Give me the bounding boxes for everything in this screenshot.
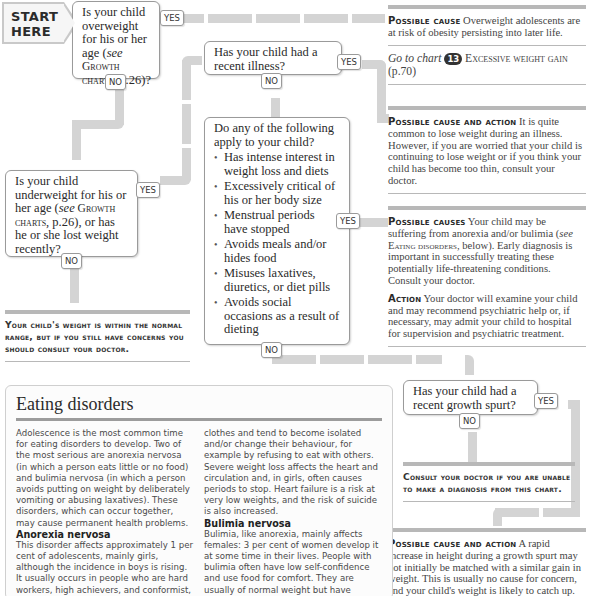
result-eating-lead: Possible causes — [388, 216, 466, 227]
eating-disorders-columns: Adolescence is the most common time for … — [16, 428, 382, 596]
question-eating-signs: Do any of the following apply to your ch… — [204, 117, 350, 345]
connector-q3-no-down — [465, 355, 474, 375]
anorexia-text: This disorder affects approximately 1 pe… — [16, 540, 194, 596]
connector-q3-yes — [360, 218, 388, 227]
goto-chart-page: (p.70) — [388, 65, 416, 78]
result-growth-lead: Possible cause and action — [388, 538, 516, 549]
connector-q1-no — [115, 85, 124, 125]
q1-yes-label[interactable]: YES — [160, 10, 184, 26]
connector-q3-no-h — [272, 355, 442, 364]
bulimia-heading: Bulimia nervosa — [204, 518, 382, 529]
result-eating-see: see — [559, 228, 573, 239]
chart-number-badge[interactable]: 13 — [444, 53, 462, 65]
result-consult-doctor: Consult your doctor if you are unable to… — [403, 462, 575, 502]
bulimia-text: Bulimia, like anorexia, mainly affects f… — [204, 529, 382, 596]
goto-chart-prefix: Go to chart — [388, 52, 441, 65]
eating-disorders-box: Eating disorders Adolescence is the most… — [5, 385, 393, 596]
start-here-badge: START HERE — [2, 2, 64, 44]
q2-no-label[interactable]: NO — [261, 73, 282, 89]
connector-q2-yes-down — [377, 60, 386, 120]
result-normal-text: Your child's weight is within the normal… — [5, 319, 190, 355]
q3-no-label[interactable]: NO — [261, 342, 282, 358]
connector-q5-yes-end — [493, 508, 502, 526]
result-illness-lead: Possible cause and action — [388, 116, 516, 127]
q3-sign-item: Avoids meals and/or hides food — [214, 238, 341, 265]
q4-yes-label[interactable]: YES — [136, 182, 160, 198]
eating-disorders-col-2: clothes and tend to become isolated and/… — [204, 428, 382, 596]
q4-no-label[interactable]: NO — [61, 253, 82, 269]
anorexia-text-cont: clothes and tend to become isolated and/… — [204, 428, 382, 518]
result-consult-text: Consult your doctor if you are unable to… — [403, 471, 575, 495]
q5-text: Has your child had a recent growth spurt… — [413, 384, 516, 412]
q3-sign-item: Excessively critical of his or her body … — [214, 180, 341, 207]
connector-q2-no — [271, 98, 280, 118]
question-underweight: Is your child underweight for his or her… — [5, 170, 138, 257]
q1-no-label[interactable]: NO — [105, 74, 126, 90]
connector-q4-yes-up — [182, 60, 191, 180]
q1-see: see — [107, 46, 123, 60]
result-eating-action-lead: Action — [388, 293, 421, 304]
connector-q1-yes — [160, 14, 385, 23]
connector-q2-top — [182, 56, 202, 65]
result-overweight: Possible cause Overweight adolescents ar… — [388, 5, 586, 85]
divider — [388, 45, 586, 46]
start-label-1: START — [11, 9, 64, 24]
q2-text: Has your child had a recent illness? — [214, 45, 317, 73]
q3-sign-list: Has intense interest in weight loss and … — [214, 151, 341, 337]
q3-sign-item: Has intense interest in weight loss and … — [214, 151, 341, 178]
question-growth-spurt: Has your child had a recent growth spurt… — [403, 380, 538, 415]
connector-q5-yes-h — [495, 508, 580, 517]
question-recent-illness: Has your child had a recent illness? — [204, 41, 342, 75]
eating-disorders-col-1: Adolescence is the most common time for … — [16, 428, 194, 596]
result-normal-weight: Your child's weight is within the normal… — [5, 310, 190, 362]
q4-see: see — [59, 201, 75, 215]
q3-sign-item: Avoids social occasions as a result of d… — [214, 296, 341, 337]
q3-intro: Do any of the following apply to your ch… — [214, 122, 341, 149]
result-eating-disorder: Possible causes Your child may be suffer… — [388, 206, 586, 347]
result-overweight-lead: Possible cause — [388, 15, 460, 26]
result-growth-spurt: Possible cause and action A rapid increa… — [388, 528, 586, 596]
eating-disorders-intro: Adolescence is the most common time for … — [16, 428, 194, 529]
result-illness: Possible cause and action It is quite co… — [388, 106, 586, 194]
question-overweight: Is your child overweight for his or her … — [72, 1, 160, 79]
connector-q1-no-down — [72, 120, 81, 160]
eating-disorders-title: Eating disorders — [16, 394, 382, 421]
goto-chart-link[interactable]: Excessive weight gain — [462, 52, 568, 65]
start-label-2: HERE — [11, 24, 64, 39]
q3-sign-item: Misuses laxatives, diuretics, or diet pi… — [214, 267, 341, 294]
connector-q4-yes-h — [160, 176, 191, 185]
q2-yes-label[interactable]: YES — [337, 54, 361, 70]
connector-q5-no — [468, 432, 477, 462]
q3-yes-label[interactable]: YES — [336, 213, 360, 229]
connector-q4-no — [70, 263, 79, 303]
q5-no-label[interactable]: NO — [459, 413, 480, 429]
q5-yes-label[interactable]: YES — [534, 393, 558, 409]
anorexia-heading: Anorexia nervosa — [16, 529, 194, 540]
q3-sign-item: Menstrual periods have stopped — [214, 209, 341, 236]
result-eating-ref: Eating disorders — [388, 240, 457, 251]
